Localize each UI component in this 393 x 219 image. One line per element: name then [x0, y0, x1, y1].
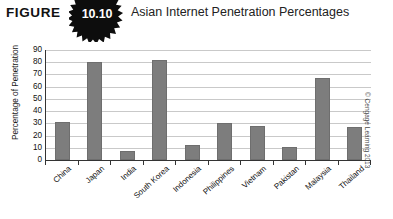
bar	[185, 145, 200, 160]
y-tick-label: 70	[24, 70, 42, 78]
bar-chart: Percentage of Penetration 01020304050607…	[0, 36, 393, 219]
y-tick-label: 20	[24, 131, 42, 139]
y-tick-label: 60	[24, 83, 42, 91]
x-tick-label: Pakistan	[272, 164, 301, 191]
bar	[152, 60, 167, 160]
bar	[217, 123, 232, 160]
bar	[87, 62, 102, 160]
x-tick-label: Malaysia	[304, 164, 333, 192]
y-tick-label: 0	[24, 156, 42, 164]
y-tick-label: 80	[24, 58, 42, 66]
x-axis-tick-labels: ChinaJapanIndiaSouth KoreaIndonesiaPhili…	[45, 164, 370, 219]
x-tick-label: Vietnam	[240, 164, 268, 190]
y-tick-label: 30	[24, 119, 42, 127]
y-tick-label: 90	[24, 46, 42, 54]
bar	[55, 122, 70, 160]
bar	[250, 126, 265, 160]
x-tick-label: Indonesia	[171, 164, 203, 194]
figure-word-label: FIGURE	[6, 5, 61, 20]
bar	[347, 127, 362, 160]
x-tick-label: Philippines	[201, 164, 236, 197]
x-tick-label: Thailand	[337, 164, 366, 191]
x-tick-label: India	[119, 164, 138, 182]
y-tick-label: 50	[24, 95, 42, 103]
bar	[315, 78, 330, 160]
plot-area	[45, 50, 371, 161]
figure-header: FIGURE 10.10 Asian Internet Penetration …	[0, 0, 393, 34]
figure-title: Asian Internet Penetration Percentages	[131, 5, 349, 19]
bar	[120, 151, 135, 160]
bar-series	[46, 50, 371, 160]
x-tick-label: Japan	[84, 164, 106, 185]
y-axis-title: Percentage of Penetration	[11, 33, 20, 153]
y-axis-tick-labels: 0102030405060708090	[24, 36, 42, 166]
y-tick-label: 40	[24, 107, 42, 115]
x-tick-label: China	[51, 164, 73, 185]
copyright-credit: © Cengage Learning 2013	[364, 92, 371, 168]
bar	[282, 147, 297, 160]
y-tick-label: 10	[24, 144, 42, 152]
